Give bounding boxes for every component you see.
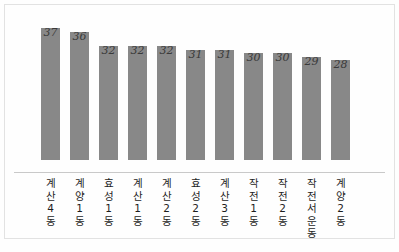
bar-group: 30작전2동 (268, 0, 297, 240)
category-label-char: 2 (326, 202, 355, 215)
category-label-char: 효 (181, 177, 210, 190)
category-label: 계산3동 (210, 177, 239, 227)
bar (273, 53, 292, 160)
bar (244, 53, 263, 160)
category-label-char: 계 (210, 177, 239, 190)
category-label-char: 동 (268, 215, 297, 228)
bar-value-label: 32 (152, 44, 181, 57)
bar-group: 32효성1동 (94, 0, 123, 240)
category-label-char: 동 (152, 215, 181, 228)
category-label: 계산2동 (152, 177, 181, 227)
category-label-char: 전 (268, 190, 297, 203)
category-label: 효성2동 (181, 177, 210, 227)
category-label-char: 동 (297, 227, 326, 240)
category-label: 작전서운동 (297, 177, 326, 240)
category-label-char: 작 (268, 177, 297, 190)
bar-group: 28계양2동 (326, 0, 355, 240)
bar-value-label: 32 (94, 44, 123, 57)
category-label-char: 1 (65, 202, 94, 215)
bar-value-label: 28 (326, 58, 355, 71)
category-label: 작전2동 (268, 177, 297, 227)
category-label-char: 계 (123, 177, 152, 190)
bar (331, 60, 350, 160)
category-label-char: 3 (210, 202, 239, 215)
bar-group: 29작전서운동 (297, 0, 326, 240)
category-label: 계양1동 (65, 177, 94, 227)
category-label-char: 성 (181, 190, 210, 203)
bar-group: 32계산1동 (123, 0, 152, 240)
category-label: 계산4동 (36, 177, 65, 227)
bar (302, 57, 321, 160)
category-label-char: 2 (152, 202, 181, 215)
bar-group: 37계산4동 (36, 0, 65, 240)
category-label-char: 동 (36, 215, 65, 228)
category-label-char: 1 (123, 202, 152, 215)
category-label-char: 2 (268, 202, 297, 215)
bar-value-label: 29 (297, 55, 326, 68)
category-label-char: 동 (181, 215, 210, 228)
category-label: 작전1동 (239, 177, 268, 227)
bar-value-label: 32 (123, 44, 152, 57)
category-label-char: 작 (297, 177, 326, 190)
category-label: 계양2동 (326, 177, 355, 227)
category-label-char: 양 (65, 190, 94, 203)
bar-group: 30작전1동 (239, 0, 268, 240)
bar-value-label: 36 (65, 30, 94, 43)
category-label-char: 전 (239, 190, 268, 203)
category-label: 효성1동 (94, 177, 123, 227)
category-label-char: 양 (326, 190, 355, 203)
plot-area: 37계산4동36계양1동32효성1동32계산1동32계산2동31효성2동31계산… (0, 0, 399, 252)
category-label-char: 계 (152, 177, 181, 190)
category-label-char: 산 (36, 190, 65, 203)
bar (99, 46, 118, 160)
category-label-char: 작 (239, 177, 268, 190)
bar-group: 32계산2동 (152, 0, 181, 240)
category-label-char: 동 (65, 215, 94, 228)
category-label-char: 산 (152, 190, 181, 203)
bar-value-label: 31 (181, 48, 210, 61)
category-label-char: 4 (36, 202, 65, 215)
bar-group: 36계양1동 (65, 0, 94, 240)
category-label-char: 산 (123, 190, 152, 203)
category-label-char: 2 (181, 202, 210, 215)
category-label-char: 동 (94, 215, 123, 228)
bar (41, 28, 60, 160)
bar (128, 46, 147, 160)
category-label-char: 효 (94, 177, 123, 190)
category-label: 계산1동 (123, 177, 152, 227)
category-label-char: 1 (239, 202, 268, 215)
category-label-char: 계 (36, 177, 65, 190)
category-label-char: 성 (94, 190, 123, 203)
category-label-char: 동 (239, 215, 268, 228)
category-label-char: 계 (326, 177, 355, 190)
bar (186, 50, 205, 160)
bar-group: 31계산3동 (210, 0, 239, 240)
bar (70, 32, 89, 160)
bar-value-label: 37 (36, 26, 65, 39)
bar-value-label: 31 (210, 48, 239, 61)
category-label-char: 산 (210, 190, 239, 203)
category-label-char: 전 (297, 190, 326, 203)
bar-chart: 37계산4동36계양1동32효성1동32계산1동32계산2동31효성2동31계산… (0, 0, 399, 252)
category-label-char: 서 (297, 202, 326, 215)
category-label-char: 동 (123, 215, 152, 228)
bar-value-label: 30 (268, 51, 297, 64)
bar-value-label: 30 (239, 51, 268, 64)
category-label-char: 운 (297, 215, 326, 228)
bar (215, 50, 234, 160)
category-label-char: 1 (94, 202, 123, 215)
bar (157, 46, 176, 160)
category-label-char: 동 (210, 215, 239, 228)
category-label-char: 동 (326, 215, 355, 228)
category-label-char: 계 (65, 177, 94, 190)
bar-group: 31효성2동 (181, 0, 210, 240)
